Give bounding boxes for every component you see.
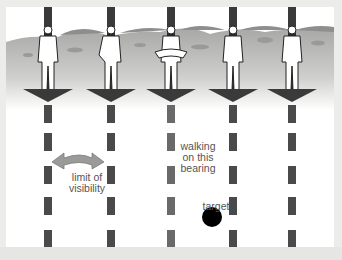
diagram-panel: limit of visibility walking on this bear… (6, 7, 334, 247)
walking-on-this-bearing-label: walking on this bearing (174, 141, 222, 174)
target-label: target (198, 201, 234, 212)
bottom-margin (0, 247, 342, 260)
visibility-double-arrow-icon (52, 153, 104, 169)
walking-bearing-diagram: limit of visibility walking on this bear… (0, 0, 342, 260)
limit-of-visibility-label: limit of visibility (61, 172, 113, 194)
diagram-svg (6, 7, 334, 247)
